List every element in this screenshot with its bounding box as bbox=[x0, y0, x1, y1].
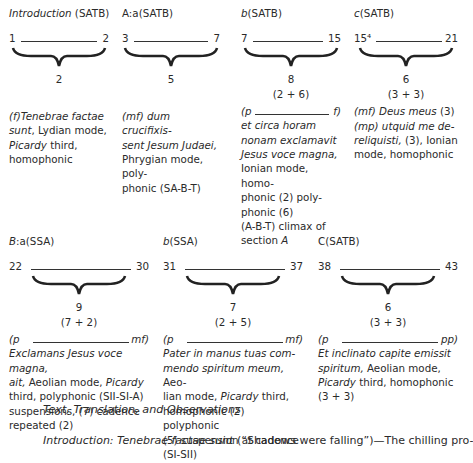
desc-line: third, bbox=[258, 390, 289, 402]
measure-count: 2 bbox=[9, 72, 109, 86]
section-description: (mf) dum crucifixis- sent Jesum Judaei, … bbox=[122, 109, 220, 195]
desc-line: (3) bbox=[437, 105, 455, 117]
range-start: 1 bbox=[9, 31, 16, 45]
desc-line: reliquisti, bbox=[354, 134, 402, 146]
range-end: 15 bbox=[328, 31, 341, 45]
section-description: (p mf) Exclamans Jesus voce magna, ait, … bbox=[9, 332, 149, 432]
desc-line: Phrygian mode, poly- bbox=[122, 153, 203, 179]
desc-line: (mf) dum crucifixis- bbox=[122, 110, 172, 136]
section-title: C(SATB) bbox=[318, 234, 458, 248]
desc-line: (mp) utquid me de- bbox=[354, 120, 454, 132]
section-description: (f)Tenebrae factae sunt, Lydian mode, Pi… bbox=[9, 109, 109, 167]
desc-line: (f)Tenebrae factae bbox=[9, 110, 104, 122]
section-b-ssa: b(SSA) 31 37 7 (2 + 5) (p mf) Pater in m… bbox=[163, 234, 303, 461]
section-introduction: Introduction (SATB) 1 2 2 (f)Tenebrae fa… bbox=[9, 6, 109, 166]
range-line bbox=[376, 41, 442, 42]
desc-line: ait, bbox=[9, 376, 25, 388]
title-rest: (SATB) bbox=[72, 7, 110, 19]
measure-range: 22 30 bbox=[9, 259, 149, 273]
desc-line: Et inclinato capite emissit bbox=[318, 347, 451, 359]
desc-line: mendo spiritum meum, bbox=[163, 362, 284, 374]
dynamics-range: (p f) bbox=[241, 104, 341, 118]
desc-line: Pater in manus tuas com- bbox=[163, 347, 295, 359]
section-title: b(SATB) bbox=[241, 6, 341, 20]
brace-icon bbox=[243, 46, 339, 68]
dynamic-line bbox=[187, 342, 283, 343]
desc-line: Exclamans Jesus voce magna, bbox=[9, 347, 122, 373]
body-paragraph: Introduction: Tenebrae factae sunt (“Sha… bbox=[43, 434, 473, 448]
desc-line: (SI-SII) bbox=[163, 448, 197, 460]
brace-icon bbox=[358, 46, 454, 68]
measure-count: 7 bbox=[163, 300, 303, 314]
desc-line: sunt bbox=[9, 124, 31, 136]
desc-line: (mf) Deus meus bbox=[354, 105, 437, 117]
desc-line: Jesus voce magna, bbox=[241, 148, 338, 160]
desc-line: (3 + 3) bbox=[318, 390, 354, 402]
range-end: 37 bbox=[290, 259, 303, 273]
range-line bbox=[21, 41, 97, 42]
desc-line: mode, homophonic bbox=[354, 148, 453, 160]
dynamic-line bbox=[342, 342, 438, 343]
desc-line: phonic (SA-B-T) bbox=[122, 182, 201, 194]
dynamic-start: (p bbox=[241, 104, 252, 118]
brace-icon bbox=[185, 274, 281, 296]
desc-line: lian mode, bbox=[163, 390, 221, 402]
range-end: 21 bbox=[445, 31, 458, 45]
range-start: 38 bbox=[318, 259, 331, 273]
range-line bbox=[253, 41, 323, 42]
brace-icon bbox=[31, 274, 127, 296]
title-rest: (SATB) bbox=[139, 7, 173, 19]
range-end: 2 bbox=[102, 31, 109, 45]
desc-line: repeated (2) bbox=[9, 419, 73, 431]
dynamic-end: f) bbox=[333, 104, 341, 118]
dynamic-end: mf) bbox=[285, 332, 303, 346]
measure-count: 9 bbox=[9, 300, 149, 314]
desc-line: third, polyphonic (SII-SI-A) bbox=[9, 390, 144, 402]
dynamic-line bbox=[33, 342, 129, 343]
dynamics-range: (p pp) bbox=[318, 332, 458, 346]
range-end: 30 bbox=[136, 259, 149, 273]
section-description: (mf) Deus meus (3) (mp) utquid me de- re… bbox=[354, 104, 458, 162]
desc-line: Picardy bbox=[9, 139, 47, 151]
desc-line: et circa horam bbox=[241, 119, 316, 131]
paragraph-italic: Introduction: Tenebrae factae sunt bbox=[43, 434, 233, 447]
measure-subdivision: (7 + 2) bbox=[9, 315, 149, 329]
measure-range: 31 37 bbox=[163, 259, 303, 273]
title-rest: (SATB) bbox=[248, 7, 282, 19]
desc-line: Picardy bbox=[221, 390, 259, 402]
range-end: 43 bbox=[445, 259, 458, 273]
section-title: A:a(SATB) bbox=[122, 6, 220, 20]
dynamic-start: (p bbox=[318, 332, 329, 346]
section-a-a: A:a(SATB) 3 7 5 (mf) dum crucifixis- sen… bbox=[122, 6, 220, 195]
title-rest: (SATB) bbox=[360, 7, 394, 19]
measure-range: 3 7 bbox=[122, 31, 220, 45]
section-title: Introduction (SATB) bbox=[9, 6, 109, 20]
desc-line: third, bbox=[47, 139, 78, 151]
measure-range: 1 2 bbox=[9, 31, 109, 45]
range-line bbox=[134, 41, 208, 42]
measure-range: 38 43 bbox=[318, 259, 458, 273]
measure-subdivision: (3 + 3) bbox=[354, 87, 458, 101]
desc-line: Aeolian mode, bbox=[25, 376, 105, 388]
dynamic-start: (p bbox=[9, 332, 20, 346]
measure-count: 6 bbox=[354, 72, 458, 86]
range-start: 15⁴ bbox=[354, 31, 371, 45]
dynamic-end: mf) bbox=[131, 332, 149, 346]
range-start: 3 bbox=[122, 31, 129, 45]
desc-line: , Lydian mode, bbox=[31, 124, 106, 136]
brace-icon bbox=[11, 46, 107, 68]
section-description: (p pp) Et inclinato capite emissit spiri… bbox=[318, 332, 458, 404]
title-italic: A:a bbox=[122, 7, 139, 19]
section-title: b(SSA) bbox=[163, 234, 303, 248]
desc-line: Picardy bbox=[318, 376, 356, 388]
desc-line: spiritum, bbox=[318, 362, 364, 374]
desc-line: third, homophonic bbox=[356, 376, 453, 388]
range-line bbox=[340, 269, 440, 270]
title-rest: (SSA) bbox=[170, 235, 198, 247]
measure-count: 5 bbox=[122, 72, 220, 86]
dynamic-end: pp) bbox=[441, 332, 458, 346]
measure-range: 7 15 bbox=[241, 31, 341, 45]
section-c-satb: C(SATB) 38 43 6 (3 + 3) (p pp) Et inclin… bbox=[318, 234, 458, 404]
paragraph-text: (“Shadows were falling”)—The chilling pr… bbox=[233, 434, 473, 447]
title-rest: :a(SSA) bbox=[16, 235, 54, 247]
